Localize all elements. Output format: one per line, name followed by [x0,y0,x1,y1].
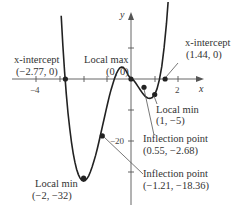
x-axis-arrow-icon [196,76,204,82]
point-local-max [128,76,133,81]
xint-right-coords: (1.44, 0) [186,49,222,61]
point-inflection-left [100,133,105,138]
infl-right-title: Inflection point [143,133,208,144]
infl-right-coords: (0.55, −2.68) [143,145,198,157]
point-x-intercept-left [63,76,68,81]
x-tick-label-2: 2 [175,85,180,95]
y-axis-label: y [119,9,125,20]
xint-left-title: x-intercept [14,54,60,65]
localmin-right-coords: (1, −5) [156,115,185,127]
localmax-coords: (0, 0) [106,66,129,78]
localmin-left-title: Local min [35,178,79,189]
xint-right-title: x-intercept [185,37,231,48]
function-graph: −4 2 −20 x y x-intercept (−2.77, 0) Loca… [0,0,239,214]
point-x-intercept-right [163,76,168,81]
y-axis-arrow-icon [128,12,134,20]
x-tick-label-neg4: −4 [30,85,40,95]
localmax-title: Local max [84,54,129,65]
x-axis-label: x [198,83,204,94]
point-local-min-right [152,92,157,97]
localmin-left-coords: (−2, −32) [32,190,72,202]
infl-left-title: Inflection point [143,168,208,179]
localmin-right-title: Local min [156,104,200,115]
infl-left-coords: (−1.21, −18.36) [143,180,210,192]
point-local-min-left [81,176,86,181]
xint-left-coords: (−2.77, 0) [16,66,58,78]
